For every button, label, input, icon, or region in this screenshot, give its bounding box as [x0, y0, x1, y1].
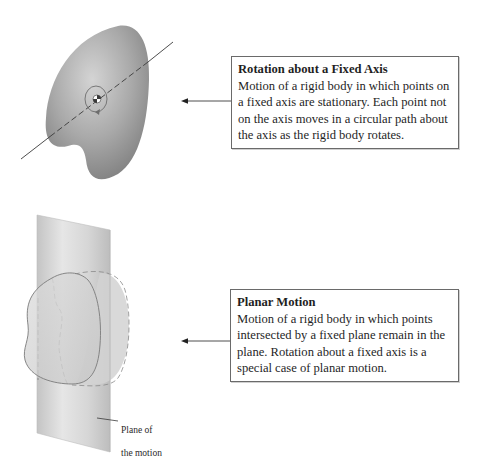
planar-callout-body: Motion of a rigid body in which points i… [237, 311, 452, 377]
rotation-leader-arrowhead-icon [181, 98, 188, 104]
plane-of-motion-label: Plane of the motion [121, 413, 162, 459]
planar-callout-title: Planar Motion [237, 294, 452, 311]
rotation-figure [21, 26, 231, 180]
planar-leader-arrowhead-icon [181, 338, 188, 344]
rotation-callout-title: Rotation about a Fixed Axis [238, 61, 452, 78]
plane-label-line-1: Plane of [121, 425, 152, 435]
fixed-axis-line-outer-bottom [21, 135, 52, 159]
rotation-callout-box: Rotation about a Fixed Axis Motion of a … [231, 56, 459, 149]
center-of-mass-marker-icon [93, 95, 101, 103]
rigid-body-front [24, 273, 100, 384]
rotation-callout-body: Motion of a rigid body in which points o… [238, 78, 452, 144]
plane-label-line-2: the motion [121, 448, 162, 458]
fixed-axis-line-outer-top [148, 42, 173, 62]
planar-callout-box: Planar Motion Motion of a rigid body in … [230, 289, 459, 382]
